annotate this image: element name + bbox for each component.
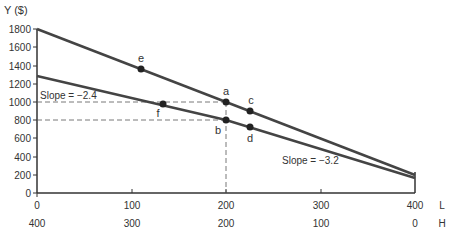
svg-text:400: 400 (29, 218, 46, 229)
point-b (223, 117, 230, 124)
svg-text:1000: 1000 (9, 97, 32, 108)
point-c (247, 108, 254, 115)
svg-text:a: a (223, 85, 230, 97)
svg-text:b: b (215, 124, 221, 136)
x-tick-labels: 0 100 200 300 400 400 300 200 100 0 L H (29, 189, 446, 229)
reference-lines (37, 102, 226, 193)
slope-annotation-left: Slope = −2.4 (40, 90, 97, 101)
slope-annotation-right: Slope = −3.2 (282, 155, 339, 166)
svg-text:1600: 1600 (9, 42, 32, 53)
svg-text:e: e (138, 52, 144, 64)
y-axis-label: Y ($) (4, 4, 28, 16)
svg-text:0: 0 (25, 188, 31, 199)
svg-text:100: 100 (313, 218, 330, 229)
svg-text:1200: 1200 (9, 79, 32, 90)
svg-text:0: 0 (34, 200, 40, 211)
x-axis-label-L: L (439, 200, 445, 211)
point-f (160, 101, 167, 108)
point-a (223, 99, 230, 106)
y-tick-labels: 0 200 400 600 800 1000 1200 1400 1600 18… (9, 24, 37, 199)
svg-text:300: 300 (313, 200, 330, 211)
svg-text:600: 600 (14, 133, 31, 144)
svg-text:400: 400 (14, 152, 31, 163)
svg-text:800: 800 (14, 115, 31, 126)
svg-text:200: 200 (218, 218, 235, 229)
svg-text:200: 200 (14, 170, 31, 181)
svg-text:200: 200 (218, 200, 235, 211)
svg-text:f: f (156, 107, 160, 119)
x-axis-label-H: H (438, 218, 445, 229)
svg-text:0: 0 (412, 218, 418, 229)
svg-text:400: 400 (407, 200, 424, 211)
budget-constraint-chart: Y ($) 0 200 400 600 800 1000 1200 1400 1… (0, 0, 454, 237)
svg-text:c: c (248, 94, 254, 106)
svg-text:300: 300 (124, 218, 141, 229)
svg-text:1800: 1800 (9, 24, 32, 35)
point-d (247, 124, 254, 131)
svg-text:100: 100 (124, 200, 141, 211)
svg-text:1400: 1400 (9, 61, 32, 72)
point-labels: e a c f b d (138, 52, 254, 144)
svg-text:d: d (247, 132, 253, 144)
point-e (138, 66, 145, 73)
